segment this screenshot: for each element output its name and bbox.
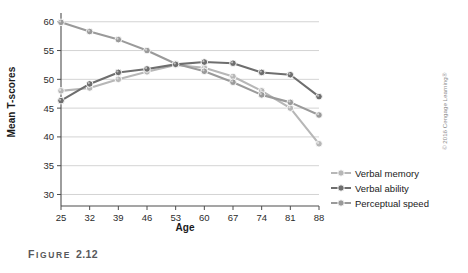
legend-marker-icon bbox=[330, 167, 352, 179]
data-point-highlight bbox=[59, 99, 61, 101]
y-axis-title-text: Mean T-scores bbox=[6, 44, 17, 160]
data-point-highlight bbox=[202, 69, 204, 71]
y-tick-label: 45 bbox=[43, 103, 54, 114]
data-point bbox=[201, 59, 208, 66]
data-point-highlight bbox=[145, 49, 147, 51]
data-point bbox=[86, 28, 93, 35]
legend-marker-icon bbox=[330, 197, 352, 209]
y-tick-label: 40 bbox=[43, 131, 54, 142]
figure-caption: FIGURE2.12 bbox=[28, 248, 98, 260]
data-point bbox=[115, 76, 122, 83]
data-point-highlight bbox=[145, 67, 147, 69]
legend-item-label: Perceptual speed bbox=[352, 198, 429, 209]
data-point bbox=[287, 99, 294, 106]
x-tick-label: 88 bbox=[314, 212, 325, 223]
data-point-highlight bbox=[317, 142, 319, 144]
data-point bbox=[230, 79, 237, 86]
data-point-highlight bbox=[59, 20, 61, 22]
data-point bbox=[144, 47, 151, 54]
figure-caption-word: IGURE bbox=[36, 250, 71, 260]
data-point-highlight bbox=[288, 73, 290, 75]
data-point bbox=[144, 66, 151, 73]
data-point-highlight bbox=[260, 93, 262, 95]
data-point bbox=[258, 92, 265, 99]
data-point bbox=[115, 69, 122, 76]
y-tick-label: 60 bbox=[43, 16, 54, 27]
x-axis-title: Age bbox=[60, 222, 310, 233]
figure-caption-label: F bbox=[28, 248, 36, 260]
chart-legend: Verbal memoryVerbal abilityPerceptual sp… bbox=[330, 166, 442, 211]
data-point bbox=[58, 88, 65, 95]
legend-item[interactable]: Verbal memory bbox=[330, 166, 442, 180]
data-point-highlight bbox=[260, 70, 262, 72]
data-point bbox=[58, 97, 65, 104]
data-point-highlight bbox=[59, 89, 61, 91]
data-point bbox=[115, 36, 122, 43]
data-point-highlight bbox=[317, 113, 319, 115]
y-tick-label: 35 bbox=[43, 160, 54, 171]
data-point-highlight bbox=[116, 77, 118, 79]
data-point-highlight bbox=[88, 82, 90, 84]
data-point-highlight bbox=[231, 74, 233, 76]
data-point bbox=[201, 68, 208, 75]
figure-caption-number: 2.12 bbox=[76, 248, 98, 260]
data-point-highlight bbox=[88, 30, 90, 32]
data-point-highlight bbox=[202, 60, 204, 62]
data-point bbox=[316, 112, 323, 119]
data-point-highlight bbox=[116, 38, 118, 40]
data-point-highlight bbox=[317, 95, 319, 97]
figure-container: 3035404550556025323946536067748188 Mean … bbox=[0, 0, 468, 273]
data-point-highlight bbox=[174, 62, 176, 64]
data-point bbox=[316, 141, 323, 148]
data-point-highlight bbox=[231, 80, 233, 82]
data-point-highlight bbox=[116, 70, 118, 72]
series-line bbox=[61, 65, 319, 144]
data-point-highlight bbox=[288, 100, 290, 102]
data-point-highlight bbox=[288, 106, 290, 108]
y-tick-label: 55 bbox=[43, 45, 54, 56]
data-point bbox=[86, 81, 93, 88]
data-point-highlight bbox=[260, 89, 262, 91]
data-point bbox=[230, 60, 237, 67]
legend-item[interactable]: Perceptual speed bbox=[330, 196, 442, 210]
y-tick-label: 50 bbox=[43, 74, 54, 85]
data-point bbox=[258, 69, 265, 76]
legend-item-label: Verbal ability bbox=[352, 183, 409, 194]
copyright-notice: © 2016 Cengage Learning® bbox=[441, 73, 448, 150]
legend-item-label: Verbal memory bbox=[352, 168, 419, 179]
y-tick-label: 30 bbox=[43, 189, 54, 200]
data-point bbox=[316, 93, 323, 100]
data-point bbox=[58, 19, 65, 26]
legend-marker-icon bbox=[330, 182, 352, 194]
data-point bbox=[287, 71, 294, 78]
data-point-highlight bbox=[231, 61, 233, 63]
data-point bbox=[172, 61, 179, 68]
legend-item[interactable]: Verbal ability bbox=[330, 181, 442, 195]
